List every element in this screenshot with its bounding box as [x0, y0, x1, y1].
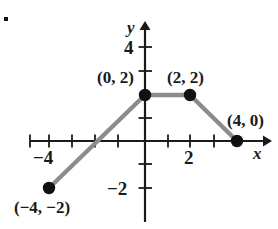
data-point	[43, 182, 55, 194]
data-point	[231, 135, 243, 147]
x-axis-label: x	[253, 145, 262, 162]
y-tick-label-4: 4	[124, 38, 134, 57]
coordinate-plane-figure: y x −4 2 4 −2 (0, 2) (2, 2) (4, 0) (−4, …	[0, 0, 278, 229]
point-label-0-2: (0, 2)	[97, 69, 134, 86]
data-point	[184, 89, 196, 101]
y-tick-label-neg2: −2	[107, 179, 127, 198]
y-axis-label: y	[127, 19, 135, 36]
point-label-2-2: (2, 2)	[167, 69, 204, 86]
point-label-neg4-neg2: (−4, −2)	[14, 199, 70, 216]
x-tick-label-neg4: −4	[33, 148, 53, 167]
point-label-4-0: (4, 0)	[227, 112, 264, 129]
data-point	[139, 89, 151, 101]
y-axis	[139, 21, 153, 222]
x-tick-label-2: 2	[184, 148, 194, 167]
